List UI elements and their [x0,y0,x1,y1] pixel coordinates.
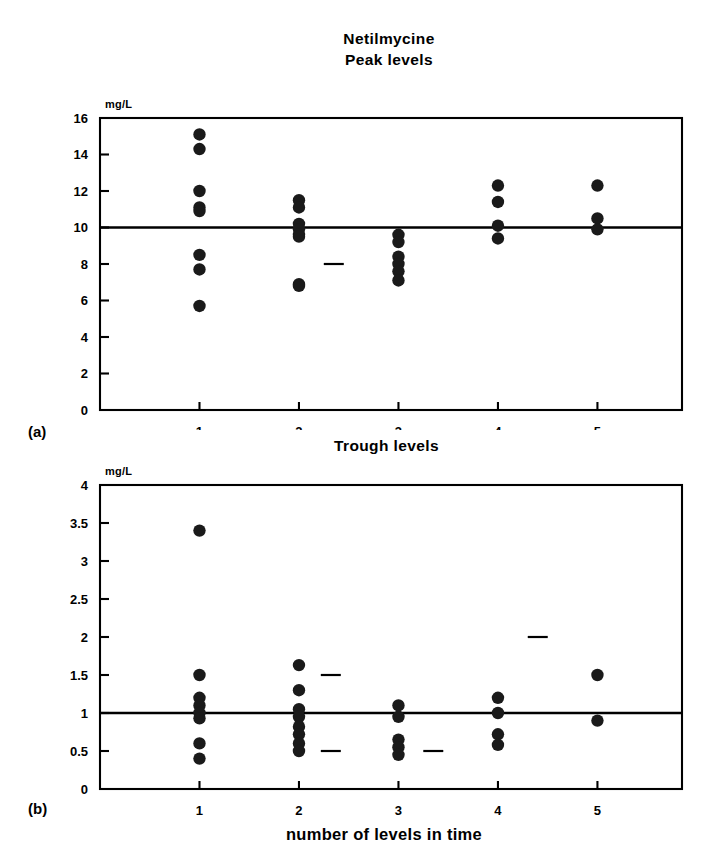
y-axis-tick-label: 2.5 [70,592,88,607]
data-point [293,659,305,671]
title-line-peak: Peak levels [60,49,718,70]
y-axis-tick-label: 14 [74,147,89,162]
y-axis-tick-label: 10 [74,220,88,235]
data-point [591,669,603,681]
data-point [293,684,305,696]
data-point [193,737,205,749]
x-axis-tick-label: 5 [594,803,601,817]
x-axis-tick-label: 2 [295,424,302,430]
data-point [392,236,404,248]
data-point [193,752,205,764]
x-axis-tick-label: 4 [494,424,502,430]
x-axis-tick-label: 4 [494,803,502,817]
data-point [591,212,603,224]
chart-panel-b-trough-levels: 00.511.522.533.5412345 [0,477,718,817]
x-axis-tick-label: 1 [196,803,203,817]
data-point [193,205,205,217]
x-axis-title: number of levels in time [0,825,718,844]
panel-tag-b: (b) [28,800,47,817]
y-axis-unit-label-a: mg/L [105,98,132,110]
data-point [492,728,504,740]
y-axis-tick-label: 6 [81,293,88,308]
data-point [193,128,205,140]
data-point [591,179,603,191]
data-point [293,201,305,213]
data-point [492,692,504,704]
data-point [193,143,205,155]
y-axis-tick-label: 0 [81,403,88,418]
data-point [392,711,404,723]
figure-title: Netilmycine Peak levels [0,28,718,70]
data-point [293,280,305,292]
data-point [193,263,205,275]
y-axis-tick-label: 8 [81,257,88,272]
y-axis-tick-label: 4 [81,478,89,493]
x-axis-tick-label: 2 [295,803,302,817]
chart-panel-a-peak-levels: 024681012141612345 [0,110,718,430]
x-axis-tick-label: 3 [395,803,402,817]
y-axis-tick-label: 2 [81,630,88,645]
y-axis-tick-label: 0 [81,782,88,797]
data-point [492,179,504,191]
y-axis-tick-label: 3 [81,554,88,569]
plot-frame [100,118,682,410]
data-point [193,300,205,312]
y-axis-tick-label: 0.5 [70,744,88,759]
y-axis-tick-label: 4 [81,330,89,345]
subtitle-trough-levels: Trough levels [0,437,718,455]
data-point [193,712,205,724]
data-point [492,219,504,231]
y-axis-tick-label: 12 [74,184,88,199]
y-axis-unit-label-b: mg/L [105,465,132,477]
y-axis-tick-label: 1.5 [70,668,88,683]
figure-netilmycine-levels: Netilmycine Peak levels mg/L 02468101214… [0,0,718,867]
data-point [591,223,603,235]
y-axis-tick-label: 16 [74,111,88,126]
data-point [492,232,504,244]
plot-frame [100,485,682,789]
data-point [492,707,504,719]
data-point [392,274,404,286]
x-axis-tick-label: 5 [594,424,601,430]
data-point [193,185,205,197]
title-line-drug: Netilmycine [60,28,718,49]
data-point [492,739,504,751]
data-point [193,669,205,681]
data-point [193,249,205,261]
data-point [193,524,205,536]
data-point [392,749,404,761]
x-axis-tick-label: 1 [196,424,203,430]
data-point [591,714,603,726]
data-point [492,196,504,208]
y-axis-tick-label: 1 [81,706,88,721]
data-point [392,699,404,711]
data-point [293,230,305,242]
y-axis-tick-label: 3.5 [70,516,88,531]
y-axis-tick-label: 2 [81,366,88,381]
data-point [293,745,305,757]
x-axis-tick-label: 3 [395,424,402,430]
